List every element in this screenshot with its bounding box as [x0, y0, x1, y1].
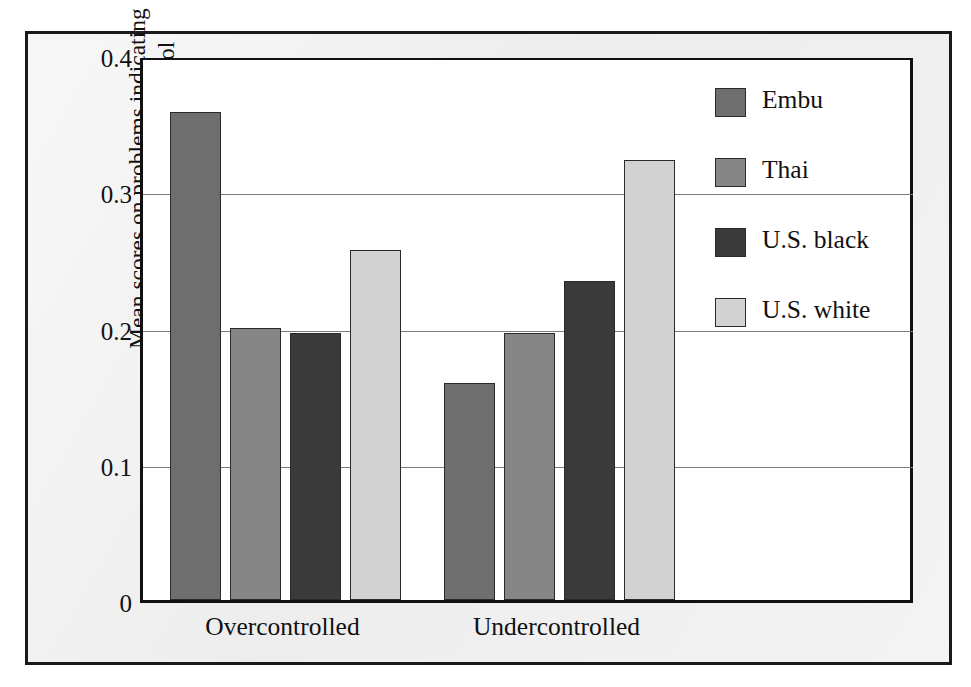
y-tick-label-0.1: 0.1 [101, 454, 132, 479]
bar [564, 281, 615, 600]
legend-swatch [715, 298, 746, 327]
legend-swatch [715, 158, 746, 187]
plot-right-border [910, 58, 913, 600]
legend-label: U.S. black [762, 225, 869, 255]
y-tick-label-0.2: 0.2 [101, 318, 132, 343]
x-axis-label-overcontrolled: Overcontrolled [123, 612, 443, 642]
legend-label: Thai [762, 155, 809, 185]
bar [350, 250, 401, 600]
y-tick-label-0.3: 0.3 [101, 182, 132, 207]
gridline-0.3 [143, 194, 913, 195]
legend-swatch [715, 228, 746, 257]
legend-label: U.S. white [762, 295, 870, 325]
x-axis-label-undercontrolled: Undercontrolled [397, 612, 717, 642]
plot-area [140, 58, 913, 603]
plot-top-border [143, 58, 913, 60]
figure-bar-chart: Mean scores on problems indicating overc… [0, 0, 971, 687]
bar [170, 112, 221, 600]
legend-swatch [715, 88, 746, 117]
legend-label: Embu [762, 85, 823, 115]
bar [624, 160, 675, 600]
bar [504, 333, 555, 600]
bar [444, 383, 495, 600]
y-axis-tick-labels: 00.10.20.30.4 [78, 58, 132, 603]
bar [230, 328, 281, 601]
y-tick-label-0.4: 0.4 [101, 46, 132, 71]
bar [290, 333, 341, 600]
